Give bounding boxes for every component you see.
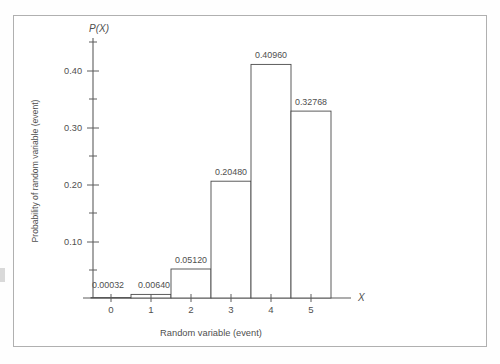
xtick-label-4: 4 bbox=[268, 304, 274, 315]
ytick-label-0: 0.40 bbox=[64, 66, 82, 76]
probability-histogram: P(X) X 0.40 0.30 0.20 0.10 bbox=[14, 16, 488, 348]
ytick-label-3: 0.10 bbox=[64, 237, 82, 247]
xtick-label-2: 2 bbox=[188, 304, 193, 315]
x-axis-symbol: X bbox=[357, 292, 365, 303]
y-axis-title: Probability of random variable (event) bbox=[30, 99, 40, 242]
figure-frame: P(X) X 0.40 0.30 0.20 0.10 bbox=[13, 15, 487, 347]
data-label-5: 0.32768 bbox=[295, 97, 327, 107]
page-background: P(X) X 0.40 0.30 0.20 0.10 bbox=[0, 0, 500, 364]
bar-4 bbox=[251, 64, 291, 298]
ytick-label-1: 0.30 bbox=[64, 123, 82, 133]
xtick-label-0: 0 bbox=[108, 304, 113, 315]
data-label-4: 0.40960 bbox=[255, 50, 287, 60]
data-label-2: 0.05120 bbox=[175, 255, 207, 265]
data-label-0: 0.00032 bbox=[92, 280, 124, 290]
data-label-1: 0.00640 bbox=[138, 280, 170, 290]
bar-5 bbox=[291, 111, 331, 298]
y-axis-symbol: P(X) bbox=[89, 23, 109, 34]
xtick-label-5: 5 bbox=[308, 304, 313, 315]
ytick-label-2: 0.20 bbox=[64, 180, 82, 190]
xtick-label-1: 1 bbox=[148, 304, 153, 315]
bar-2 bbox=[171, 269, 211, 298]
xtick-label-3: 3 bbox=[228, 304, 233, 315]
data-label-3: 0.20480 bbox=[215, 167, 247, 177]
x-axis-title: Random variable (event) bbox=[160, 328, 262, 338]
bar-3 bbox=[211, 181, 251, 298]
page-edge-artifact bbox=[0, 268, 5, 282]
